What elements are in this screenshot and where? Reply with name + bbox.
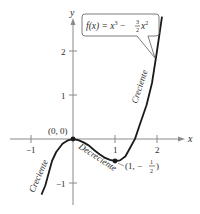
formula-frac-num: 3	[136, 19, 139, 25]
function-callout: f(x) = x3 − 3 2 x2	[82, 14, 159, 58]
label-local-min: (1, − 1 2 )	[125, 159, 159, 174]
leader-min	[118, 163, 124, 166]
function-formula: f(x) = x3 −	[86, 20, 125, 32]
tick-label-x-2: 2	[155, 145, 160, 155]
annotation-increasing-right: Creciente	[129, 69, 149, 105]
tick-label-x-1: 1	[113, 145, 118, 155]
tick-label-y-2: 2	[61, 47, 66, 57]
tick-label-x-neg1: −1	[26, 145, 36, 155]
y-axis-arrow-icon	[71, 18, 76, 25]
label-origin: (0, 0)	[48, 126, 68, 136]
label-min-den: 2	[150, 168, 153, 174]
formula-frac-den: 2	[136, 27, 139, 33]
annotation-increasing-left: Creciente	[27, 158, 50, 194]
label-min-close: )	[156, 161, 159, 171]
x-axis-label: x	[187, 133, 193, 144]
y-axis-label: y	[69, 7, 75, 18]
function-graph: −1 1 2 2 1 −1 x y (0, 0) (1, − 1 2 ) Cre…	[0, 0, 200, 214]
tick-label-y-1: 1	[61, 91, 66, 101]
label-min-open: (1, −	[125, 161, 142, 171]
formula-exp2: 2	[145, 20, 148, 26]
formula-minus: −	[118, 21, 126, 31]
point-origin	[71, 137, 76, 142]
x-axis-arrow-icon	[178, 137, 185, 142]
tick-label-y-neg1: −1	[56, 179, 66, 189]
label-min-num: 1	[150, 159, 153, 165]
formula-lhs: f(x) = x	[86, 21, 115, 32]
